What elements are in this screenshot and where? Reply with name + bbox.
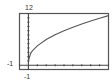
chart-curve: [28, 16, 108, 61]
chart-axes: [20, 14, 109, 70]
x-min-label: -1: [24, 73, 30, 80]
chart-frame: [20, 14, 109, 70]
y-max-label: 12: [25, 4, 33, 11]
chart-plot: [0, 0, 112, 83]
y-min-label: -1: [7, 60, 13, 67]
